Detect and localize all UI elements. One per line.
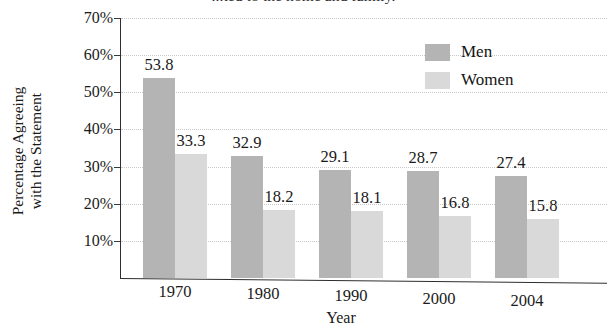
bar-women-1980 bbox=[263, 210, 295, 278]
gridline bbox=[121, 129, 607, 130]
bar-value-label: 18.1 bbox=[342, 190, 392, 207]
bar-women-1990 bbox=[351, 211, 383, 278]
y-axis-title-line1: Percentage Agreeing bbox=[9, 87, 27, 216]
y-axis-tick-label: 20% bbox=[55, 196, 113, 212]
legend-item-women: Women bbox=[425, 66, 575, 94]
bar-value-label: 33.3 bbox=[166, 133, 216, 150]
y-axis-line bbox=[120, 18, 121, 279]
bar-value-label: 28.7 bbox=[398, 150, 448, 167]
bar-men-2004 bbox=[495, 176, 527, 278]
y-axis-tick-label: 40% bbox=[55, 121, 113, 137]
gridline bbox=[121, 18, 607, 19]
bar-value-label: 16.8 bbox=[430, 195, 480, 212]
bar-value-label: 27.4 bbox=[486, 155, 536, 172]
x-axis-tick-label-1980: 1980 bbox=[217, 286, 309, 303]
x-axis-tick-label-2000: 2000 bbox=[393, 291, 485, 308]
legend-item-men: Men bbox=[425, 38, 575, 66]
y-axis-tick-label: 60% bbox=[55, 47, 113, 63]
x-axis-tick-label-2004: 2004 bbox=[481, 293, 573, 310]
legend-swatch-women bbox=[425, 72, 450, 89]
x-axis-title: Year bbox=[121, 309, 561, 327]
y-axis-title-line2: with the Statement bbox=[27, 93, 45, 209]
bar-men-1980 bbox=[231, 156, 263, 278]
y-axis-tick-label: 50% bbox=[55, 84, 113, 100]
chart-title: ...ted to the home and family. bbox=[0, 0, 607, 5]
y-axis-tick-label: 10% bbox=[55, 233, 113, 249]
chart-legend: MenWomen bbox=[425, 38, 575, 94]
bar-value-label: 18.2 bbox=[254, 189, 304, 206]
bar-value-label: 29.1 bbox=[310, 149, 360, 166]
bar-value-label: 15.8 bbox=[518, 198, 568, 215]
y-axis-tick-label: 70% bbox=[55, 10, 113, 26]
bar-men-1990 bbox=[319, 170, 351, 278]
y-axis-tick-label: 30% bbox=[55, 159, 113, 175]
bar-women-2000 bbox=[439, 216, 471, 278]
bar-women-1970 bbox=[175, 154, 207, 278]
y-axis-title: Percentage Agreeing with the Statement bbox=[4, 21, 50, 281]
legend-label-men: Men bbox=[461, 42, 492, 62]
x-axis-tick-label-1970: 1970 bbox=[129, 284, 221, 301]
legend-label-women: Women bbox=[461, 70, 513, 90]
bar-chart-figure: ...ted to the home and family. Percentag… bbox=[0, 0, 607, 335]
legend-swatch-men bbox=[425, 44, 450, 61]
bar-men-2000 bbox=[407, 171, 439, 278]
x-axis-tick-label-1990: 1990 bbox=[305, 288, 397, 305]
x-axis-line bbox=[120, 278, 607, 284]
bar-value-label: 32.9 bbox=[222, 135, 272, 152]
bar-men-1970 bbox=[143, 78, 175, 278]
bar-value-label: 53.8 bbox=[134, 57, 184, 74]
bar-women-2004 bbox=[527, 219, 559, 278]
